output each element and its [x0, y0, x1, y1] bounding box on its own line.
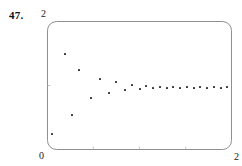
data-point	[78, 69, 80, 71]
data-point	[64, 53, 66, 55]
data-point	[99, 78, 101, 80]
x-axis-max-label: 2	[234, 151, 239, 162]
data-point	[159, 86, 161, 88]
x-axis-origin-label: 0	[39, 150, 44, 161]
data-point	[90, 97, 92, 99]
problem-number-label: 47.	[9, 9, 23, 21]
data-point	[145, 85, 147, 87]
data-point	[199, 86, 201, 88]
data-point	[206, 87, 208, 89]
data-point	[115, 81, 117, 83]
data-point	[108, 92, 110, 94]
data-point	[226, 86, 228, 88]
data-point	[172, 86, 174, 88]
data-point	[139, 88, 141, 90]
data-point	[166, 87, 168, 89]
data-point	[179, 87, 181, 89]
data-point	[193, 87, 195, 89]
y-axis-max-label: 2	[41, 8, 46, 19]
data-point	[220, 87, 222, 89]
data-point	[71, 114, 73, 116]
plot-area	[47, 21, 232, 150]
data-point	[131, 84, 133, 86]
data-point	[186, 86, 188, 88]
data-point	[152, 87, 154, 89]
scatter-points-layer	[47, 21, 232, 150]
data-point	[51, 133, 53, 135]
figure-container: 47. 2 0 2	[0, 0, 242, 166]
data-point	[124, 89, 126, 91]
data-point	[213, 86, 215, 88]
